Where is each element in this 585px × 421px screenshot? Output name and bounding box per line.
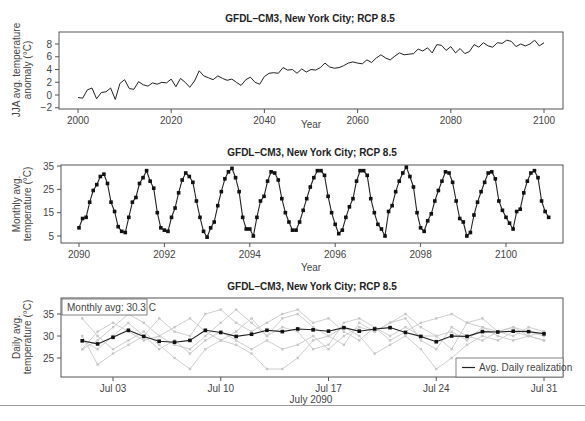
realization-marker xyxy=(512,326,514,328)
realization-marker xyxy=(420,348,422,350)
realization-marker xyxy=(481,339,483,341)
avg-daily-marker xyxy=(327,329,331,333)
x-axis-label: July 2090 xyxy=(290,394,333,405)
realization-marker xyxy=(481,317,483,319)
realization-marker xyxy=(96,330,98,332)
chart-panel-monthly: GFDL–CM3, New York City; RCP 8.551525352… xyxy=(0,130,585,275)
realization-marker xyxy=(327,344,329,346)
data-point-marker xyxy=(131,200,135,204)
data-point-marker xyxy=(134,196,138,200)
avg-daily-marker xyxy=(527,330,531,334)
data-point-marker xyxy=(444,170,448,174)
data-point-marker xyxy=(95,183,99,187)
data-point-marker xyxy=(212,220,216,224)
data-point-marker xyxy=(241,216,245,220)
data-point-marker xyxy=(333,223,337,227)
data-point-marker xyxy=(447,171,451,175)
realization-marker xyxy=(281,348,283,350)
realization-marker xyxy=(312,348,314,350)
chart-title: GFDL–CM3, New York City; RCP 8.5 xyxy=(227,281,397,292)
data-point-marker xyxy=(358,169,362,173)
realization-marker xyxy=(389,339,391,341)
data-point-marker xyxy=(266,179,270,183)
realization-marker xyxy=(466,339,468,341)
data-point-marker xyxy=(497,199,501,203)
realization-marker xyxy=(96,363,98,365)
x-axis-label: Year xyxy=(301,119,322,130)
data-point-marker xyxy=(337,232,341,236)
realization-marker xyxy=(497,335,499,337)
realization-marker xyxy=(512,339,514,341)
realization-marker xyxy=(235,344,237,346)
x-axis-label: Year xyxy=(301,262,322,273)
realization-marker xyxy=(527,326,529,328)
data-point-marker xyxy=(227,170,231,174)
avg-daily-marker xyxy=(250,332,254,336)
data-point-marker xyxy=(540,199,544,203)
data-point-marker xyxy=(394,190,398,194)
data-point-marker xyxy=(308,185,312,189)
data-point-marker xyxy=(280,197,284,201)
annual-anomaly-chart: GFDL–CM3, New York City; RCP 8.5−2024682… xyxy=(0,0,585,130)
data-point-marker xyxy=(518,207,522,211)
data-point-marker xyxy=(202,230,206,234)
avg-daily-marker xyxy=(296,327,300,331)
legend-label: Avg. Daily realization xyxy=(479,362,572,373)
data-point-marker xyxy=(330,211,334,215)
data-point-marker xyxy=(301,209,305,213)
data-point-marker xyxy=(529,171,533,175)
data-point-marker xyxy=(341,228,345,232)
realization-marker xyxy=(358,339,360,341)
data-point-marker xyxy=(316,169,320,173)
data-point-marker xyxy=(120,230,124,234)
realization-marker xyxy=(81,348,83,350)
realization-marker xyxy=(143,330,145,332)
data-point-marker xyxy=(173,206,177,210)
data-point-marker xyxy=(284,211,288,215)
chart-title: GFDL–CM3, New York City; RCP 8.5 xyxy=(225,13,395,24)
data-point-marker xyxy=(401,171,405,175)
realization-marker xyxy=(173,326,175,328)
realization-marker xyxy=(189,335,191,337)
realization-marker xyxy=(189,368,191,370)
data-point-marker xyxy=(508,221,512,225)
data-point-marker xyxy=(319,169,323,173)
realization-marker xyxy=(112,326,114,328)
realization-marker xyxy=(404,313,406,315)
data-point-marker xyxy=(312,176,316,180)
realization-marker xyxy=(466,322,468,324)
avg-daily-marker xyxy=(157,339,161,343)
data-point-marker xyxy=(373,211,377,215)
data-point-marker xyxy=(91,189,95,193)
realization-marker xyxy=(204,313,206,315)
data-point-marker xyxy=(166,230,170,234)
data-point-marker xyxy=(198,216,202,220)
realization-marker xyxy=(343,335,345,337)
data-point-marker xyxy=(433,199,437,203)
realization-marker xyxy=(297,308,299,310)
x-tick-label: 2090 xyxy=(68,249,91,260)
data-point-marker xyxy=(344,216,348,220)
data-point-marker xyxy=(451,181,455,185)
data-point-marker xyxy=(291,228,295,232)
data-point-marker xyxy=(170,216,174,220)
chart-panel-daily: GFDL–CM3, New York City; RCP 8.5253035Ju… xyxy=(0,275,585,405)
realization-marker xyxy=(312,339,314,341)
data-point-marker xyxy=(515,210,519,214)
data-point-marker xyxy=(536,176,540,180)
x-tick-label: Jul 24 xyxy=(423,383,450,394)
realization-marker xyxy=(127,322,129,324)
data-point-marker xyxy=(244,227,248,231)
data-point-marker xyxy=(326,195,330,199)
data-point-marker xyxy=(362,169,366,173)
data-point-marker xyxy=(501,209,505,213)
realization-marker xyxy=(250,317,252,319)
data-point-marker xyxy=(422,230,426,234)
data-point-marker xyxy=(294,228,298,232)
avg-daily-marker xyxy=(388,326,392,330)
x-tick-label: 2000 xyxy=(67,115,90,126)
data-point-marker xyxy=(141,176,145,180)
data-point-marker xyxy=(461,220,465,224)
y-tick-label: 25 xyxy=(43,353,55,364)
data-point-marker xyxy=(248,227,252,231)
